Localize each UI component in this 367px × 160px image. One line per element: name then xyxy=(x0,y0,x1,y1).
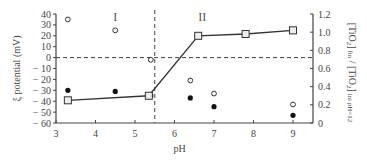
x-tick-label: 4 xyxy=(93,128,98,139)
open-circle-marker xyxy=(65,17,70,22)
y-tick-label: − 10 xyxy=(33,63,51,74)
open-circle-marker xyxy=(148,57,153,62)
region-label: I xyxy=(113,10,117,24)
x-tick-label: 3 xyxy=(54,128,59,139)
x-tick-label: 8 xyxy=(251,128,256,139)
axis-labels: pHξ potential (mV)[TiO2] fin / [TiO2] in… xyxy=(11,23,358,154)
y-tick-label: − 60 xyxy=(33,118,51,129)
open-circle-marker xyxy=(212,91,217,96)
filled-circle-marker xyxy=(290,113,295,118)
axes: 403020100− 10− 20− 30− 40− 50− 601.21.00… xyxy=(33,9,331,140)
x-tick-label: 6 xyxy=(172,128,177,139)
y2-axis-title: [TiO2] fin / [TiO2] ini pH=12 xyxy=(345,23,358,123)
y2-tick-label: 0.2 xyxy=(318,99,331,110)
filled-circle-marker xyxy=(65,88,70,93)
y2-tick-label: 0.4 xyxy=(318,81,331,92)
y-tick-label: 10 xyxy=(41,41,51,52)
y-tick-label: 40 xyxy=(41,9,51,20)
y2-tick-label: 0.8 xyxy=(318,45,331,56)
x-tick-label: 7 xyxy=(212,128,217,139)
y2-tick-label: 1.2 xyxy=(318,9,331,20)
region-label: II xyxy=(198,10,206,24)
y-tick-label: 30 xyxy=(41,19,51,30)
y-tick-label: − 30 xyxy=(33,85,51,96)
square-marker xyxy=(242,30,249,37)
y-tick-label: 20 xyxy=(41,30,51,41)
y2-tick-label: 0 xyxy=(318,118,323,129)
square-marker xyxy=(290,27,297,34)
open-circle-marker xyxy=(188,78,193,83)
y-tick-label: − 20 xyxy=(33,74,51,85)
zeta-potential-chart: 403020100− 10− 20− 30− 40− 50− 601.21.00… xyxy=(0,0,367,160)
ratio-line xyxy=(68,30,293,100)
y2-tick-label: 1.0 xyxy=(318,27,331,38)
y-tick-label: 0 xyxy=(46,52,51,63)
y-tick-label: − 50 xyxy=(33,107,51,118)
x-tick-label: 5 xyxy=(133,128,138,139)
square-marker xyxy=(64,97,71,104)
filled-circle-marker xyxy=(188,95,193,100)
square-marker xyxy=(145,92,152,99)
y2-tick-label: 0.6 xyxy=(318,63,331,74)
filled-circle-marker xyxy=(211,104,216,109)
y-axis-title: ξ potential (mV) xyxy=(11,35,23,101)
y-tick-label: − 40 xyxy=(33,96,51,107)
open-circle-marker xyxy=(113,28,118,33)
x-axis-title: pH xyxy=(173,143,185,154)
reference-lines: III xyxy=(56,10,313,123)
square-marker xyxy=(195,32,202,39)
x-tick-label: 9 xyxy=(291,128,296,139)
data-series xyxy=(64,17,296,118)
filled-circle-marker xyxy=(113,89,118,94)
open-circle-marker xyxy=(291,102,296,107)
